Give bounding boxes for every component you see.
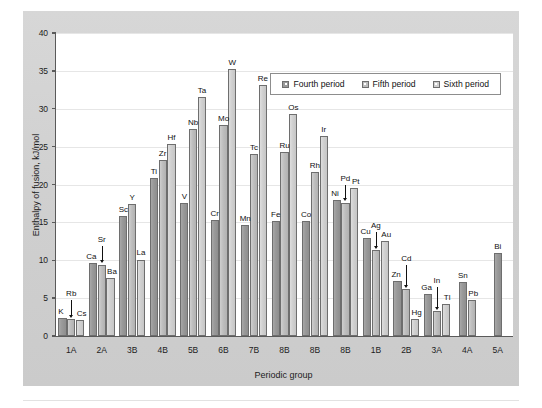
y-tick-label: 0: [26, 331, 48, 341]
legend-swatch-icon: [433, 81, 440, 88]
y-axis-label-holder: Enthalpy of fusion, kJ/mol: [40, 33, 41, 336]
element-label-cs: Cs: [77, 310, 87, 318]
bar-bi: [494, 253, 502, 336]
leader-line: [376, 232, 377, 246]
bar-ca: [89, 263, 97, 336]
x-axis-label: Periodic group: [55, 370, 512, 380]
x-group-label-8: 8B: [300, 336, 330, 355]
element-label-tl: Tl: [444, 294, 451, 302]
x-group-label-13: 4A: [452, 336, 482, 355]
bar-la: [137, 260, 145, 337]
element-label-sr: Sr: [98, 236, 106, 244]
bar-cu: [363, 238, 371, 336]
bar-pt: [350, 188, 358, 336]
legend-swatch-icon: [282, 81, 289, 88]
y-tick-label: 10: [26, 255, 48, 265]
element-label-re: Re: [258, 75, 268, 83]
bar-pd: [341, 203, 349, 336]
y-tick-mark: [52, 184, 56, 185]
y-tick-label: 35: [26, 66, 48, 76]
y-axis-label: Enthalpy of fusion, kJ/mol: [31, 133, 41, 236]
gridline: [56, 33, 513, 34]
element-label-ag: Ag: [371, 222, 381, 230]
element-label-fe: Fe: [271, 211, 280, 219]
y-tick-mark: [52, 146, 56, 147]
element-label-ca: Ca: [86, 253, 96, 261]
leader-line: [406, 265, 407, 285]
x-group-label-6: 7B: [239, 336, 269, 355]
leader-arrowhead: [435, 307, 439, 310]
bar-ru: [280, 152, 288, 336]
bar-rb: [67, 319, 75, 336]
element-label-os: Os: [288, 104, 298, 112]
element-label-au: Au: [381, 231, 391, 239]
bar-ir: [320, 136, 328, 336]
leader-arrowhead: [100, 260, 104, 263]
bar-cd: [402, 289, 410, 336]
legend-label: Fourth period: [293, 79, 344, 89]
y-tick-mark: [52, 222, 56, 223]
bar-sr: [98, 265, 106, 336]
element-label-in: In: [433, 277, 440, 285]
leader-arrowhead: [374, 246, 378, 249]
bar-hf: [167, 144, 175, 336]
element-label-zn: Zn: [391, 271, 400, 279]
bar-mn: [241, 225, 249, 336]
legend-label: Sixth period: [444, 79, 489, 89]
element-label-pt: Pt: [352, 178, 360, 186]
bar-cr: [211, 220, 219, 336]
bar-zn: [393, 281, 401, 336]
leader-arrowhead: [404, 285, 408, 288]
legend: Fourth period Fifth period Sixth period: [270, 73, 501, 95]
element-label-mn: Mn: [240, 215, 251, 223]
y-tick-mark: [52, 32, 56, 33]
bar-in: [433, 311, 441, 336]
x-group-label-9: 8B: [330, 336, 360, 355]
legend-label: Fifth period: [373, 79, 416, 89]
figure-chart-enthalpy-of-fusion: KRbCsCaSrBaScYLaTiZrHfVNbTaCrMoWMnTcReFe…: [0, 0, 542, 408]
leader-line: [71, 300, 72, 315]
element-label-hf: Hf: [167, 134, 175, 142]
element-label-rh: Rh: [310, 162, 320, 170]
leader-line: [102, 246, 103, 261]
gridline: [56, 109, 513, 110]
element-label-w: W: [229, 59, 237, 67]
element-label-ir: Ir: [321, 126, 326, 134]
element-label-ti: Ti: [151, 168, 157, 176]
element-label-ru: Ru: [279, 142, 289, 150]
bar-ti: [150, 178, 158, 336]
bar-ag: [372, 250, 380, 336]
bar-co: [302, 221, 310, 336]
element-label-sn: Sn: [458, 272, 468, 280]
bar-rh: [311, 172, 319, 336]
element-label-cu: Cu: [360, 228, 370, 236]
legend-item-sixth-period: Sixth period: [433, 79, 489, 89]
element-label-hg: Hg: [412, 309, 422, 317]
element-label-v: V: [182, 193, 187, 201]
leader-line: [437, 287, 438, 307]
legend-item-fifth-period: Fifth period: [362, 79, 416, 89]
bar-tl: [442, 304, 450, 336]
bar-os: [289, 114, 297, 336]
bar-pb: [468, 300, 476, 336]
bar-ga: [424, 294, 432, 336]
bar-tc: [250, 154, 258, 336]
element-label-k: K: [58, 308, 63, 316]
legend-item-fourth-period: Fourth period: [282, 79, 344, 89]
y-tick-mark: [52, 297, 56, 298]
y-tick-label: 5: [26, 293, 48, 303]
legend-swatch-icon: [362, 81, 369, 88]
bar-hg: [411, 319, 419, 336]
y-tick-label: 40: [26, 28, 48, 38]
bar-sn: [459, 282, 467, 336]
bar-fe: [272, 221, 280, 336]
element-label-bi: Bi: [494, 243, 501, 251]
element-label-cr: Cr: [211, 210, 219, 218]
element-label-cd: Cd: [401, 255, 411, 263]
x-group-label-7: 8B: [269, 336, 299, 355]
element-label-mo: Mo: [218, 115, 229, 123]
x-group-label-10: 1B: [361, 336, 391, 355]
leader-arrowhead: [343, 198, 347, 201]
x-group-label-4: 5B: [178, 336, 208, 355]
gridline: [56, 71, 513, 72]
